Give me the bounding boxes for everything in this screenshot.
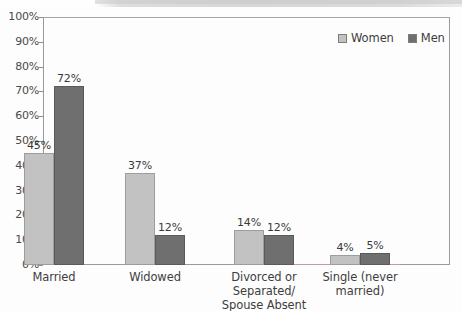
bar-women-3[interactable]: 4%: [330, 255, 360, 265]
x-axis-label-line: Widowed: [104, 270, 205, 284]
bar-value-label: 12%: [158, 221, 182, 234]
x-axis-label-0: Married: [3, 270, 104, 284]
legend-label-women: Women: [351, 31, 394, 45]
bars-container: 45%72%37%12%14%12%4%5%: [44, 18, 449, 265]
men-swatch-icon: [408, 34, 417, 43]
bar-value-label: 45%: [27, 139, 51, 152]
x-axis-label-line: Married: [3, 270, 104, 284]
bar-women-2[interactable]: 14%: [234, 230, 264, 265]
x-axis-label-line: Divorced or: [213, 270, 314, 284]
bar-value-label: 14%: [237, 216, 261, 229]
bar-men-3[interactable]: 5%: [360, 253, 390, 265]
scan-artifact-band-inner: [95, 0, 462, 4]
bar-group: 45%72%: [24, 18, 84, 265]
legend-label-men: Men: [421, 31, 445, 45]
bar-value-label: 12%: [267, 221, 291, 234]
x-axis-label-1: Widowed: [104, 270, 205, 284]
bar-value-label: 4%: [336, 241, 353, 254]
x-axis-label-line: Spouse Absent: [213, 298, 314, 311]
bar-group: 14%12%: [234, 18, 294, 265]
bar-value-label: 5%: [366, 239, 383, 252]
x-axis-label-2: Divorced orSeparated/Spouse Absent: [213, 270, 314, 311]
bar-men-1[interactable]: 12%: [155, 235, 185, 265]
chart-legend: Women Men: [338, 31, 445, 45]
x-axis-label-line: married): [309, 284, 410, 298]
bar-group: 4%5%: [330, 18, 390, 265]
legend-item-men[interactable]: Men: [408, 31, 445, 45]
chart-screenshot: 0%10%20%30%40%50%60%70%80%90%100% 45%72%…: [0, 0, 462, 311]
bar-women-0[interactable]: 45%: [24, 153, 54, 265]
legend-item-women[interactable]: Women: [338, 31, 394, 45]
bar-men-0[interactable]: 72%: [54, 86, 84, 265]
x-axis-label-line: Separated/: [213, 284, 314, 298]
x-axis-label-line: Single (never: [309, 270, 410, 284]
bar-men-2[interactable]: 12%: [264, 235, 294, 265]
bar-group: 37%12%: [125, 18, 185, 265]
x-axis-label-3: Single (nevermarried): [309, 270, 410, 298]
bar-women-1[interactable]: 37%: [125, 173, 155, 265]
women-swatch-icon: [338, 34, 347, 43]
bar-value-label: 72%: [57, 72, 81, 85]
bar-value-label: 37%: [128, 159, 152, 172]
y-axis-tick-mark: [38, 265, 43, 266]
